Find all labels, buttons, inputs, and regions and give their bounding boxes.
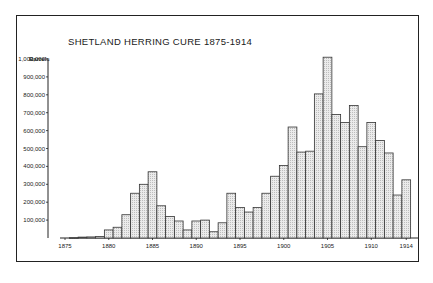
bar-1886 [157, 206, 166, 238]
bar-1904 [314, 94, 323, 238]
bar-1879 [96, 237, 105, 238]
bar-1883 [131, 193, 140, 238]
bar-1909 [358, 147, 367, 238]
bar-1899 [271, 176, 280, 238]
x-tick-label: 1905 [321, 243, 335, 249]
bar-chart: SHETLAND HERRING CURE 1875-1914 Barrels … [0, 0, 433, 283]
x-tick-label: 1900 [277, 243, 291, 249]
bar-1895 [236, 208, 245, 238]
bar-1884 [139, 184, 148, 238]
y-tick-label: 700,000 [23, 110, 45, 116]
bar-1878 [87, 237, 96, 238]
bar-1894 [227, 193, 236, 238]
bar-1890 [192, 221, 201, 238]
bar-1912 [384, 153, 393, 238]
bar-1877 [78, 237, 87, 238]
chart-title: SHETLAND HERRING CURE 1875-1914 [68, 36, 252, 47]
y-ticks: 100,000200,000300,000400,000500,000600,0… [18, 56, 48, 223]
x-ticks: 187518801885189018951900190519101914 [58, 238, 413, 249]
bar-1898 [262, 193, 271, 238]
x-tick-label: 1914 [400, 243, 414, 249]
x-tick-label: 1910 [365, 243, 379, 249]
bar-1901 [288, 127, 297, 238]
x-tick-label: 1895 [233, 243, 247, 249]
y-tick-label: 300,000 [23, 181, 45, 187]
bar-1885 [148, 172, 157, 238]
bar-1908 [349, 106, 358, 238]
y-tick-label: 600,000 [23, 128, 45, 134]
x-tick-label: 1880 [102, 243, 116, 249]
y-tick-label: 800,000 [23, 92, 45, 98]
bar-1893 [218, 223, 227, 238]
bar-1880 [104, 230, 113, 238]
bar-1905 [323, 57, 332, 238]
bar-1881 [113, 227, 122, 238]
bar-1907 [341, 123, 350, 238]
y-tick-label: 900,000 [23, 74, 45, 80]
bar-1902 [297, 152, 306, 238]
x-tick-label: 1890 [190, 243, 204, 249]
bar-1903 [306, 151, 315, 238]
bar-1911 [376, 140, 385, 238]
y-tick-label: 100,000 [23, 217, 45, 223]
y-tick-label: 500,000 [23, 146, 45, 152]
bar-1887 [166, 217, 175, 238]
y-tick-label: 1,000,000 [18, 56, 45, 62]
bar-1913 [393, 195, 402, 238]
bar-1900 [279, 166, 288, 238]
x-tick-label: 1875 [58, 243, 72, 249]
bar-1888 [174, 221, 183, 238]
y-tick-label: 400,000 [23, 163, 45, 169]
bar-1910 [367, 123, 376, 238]
bar-1906 [332, 114, 341, 238]
bar-1896 [244, 212, 253, 238]
x-tick-label: 1885 [146, 243, 160, 249]
bars [69, 57, 410, 238]
bar-1914 [402, 180, 411, 238]
bar-1876 [69, 238, 78, 239]
bar-1882 [122, 215, 131, 238]
bar-1892 [209, 232, 218, 238]
bar-1891 [201, 220, 210, 238]
bar-1889 [183, 230, 192, 238]
y-tick-label: 200,000 [23, 199, 45, 205]
bar-1897 [253, 208, 262, 238]
